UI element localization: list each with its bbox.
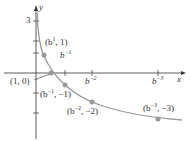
point-label: (b−2, −2) bbox=[67, 106, 98, 116]
point-label: (b−1, −1) bbox=[40, 89, 71, 99]
x-tick-label: b−3 bbox=[152, 76, 164, 86]
log-graph: y 3 x (b1, 1) (1, 0) (b−1, −1) (b−2, −2)… bbox=[0, 0, 191, 141]
x-tick-label: b−2 bbox=[85, 76, 97, 86]
point-label: (b−3, −3) bbox=[143, 103, 174, 113]
y-tick-label: 3 bbox=[26, 15, 31, 25]
point-label: (1, 0) bbox=[10, 76, 30, 86]
point-label: (b1, 1) bbox=[45, 37, 68, 47]
y-axis-label: y bbox=[39, 2, 43, 12]
x-tick-label: b−1 bbox=[60, 50, 72, 60]
x-axis-label: x bbox=[177, 74, 181, 84]
